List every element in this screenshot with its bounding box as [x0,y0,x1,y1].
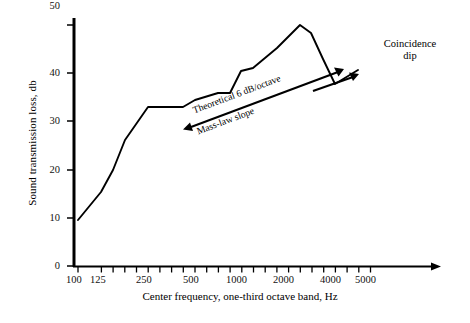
x-tick-label-2000: 2000 [273,274,294,285]
chart-figure: 50 40 30 20 10 0 100 125 250 500 1000 20… [0,0,470,323]
mass-law-arrow-upper [313,73,359,92]
y-tick-label-50: 50 [38,0,60,11]
y-tick-label-40: 40 [38,67,60,78]
annotation-coincidence-dip: Coincidence dip [364,38,456,63]
x-tick-label-100: 100 [66,274,82,285]
x-tick-label-1000: 1000 [226,274,247,285]
annotation-coincidence-dip-line1: Coincidence [384,38,436,49]
x-tick-label-500: 500 [183,274,199,285]
x-axis-arrowhead [431,263,441,271]
x-axis-title: Center frequency, one-third octave band,… [75,290,405,302]
annotation-coincidence-dip-line2: dip [403,50,416,61]
y-tick-label-0: 0 [38,260,60,271]
y-tick-label-30: 30 [38,115,60,126]
x-tick-label-4000: 4000 [320,274,341,285]
y-axis-title: Sound transmission loss, db [26,33,38,253]
x-tick-label-5000: 5000 [355,274,376,285]
y-tick-label-10: 10 [38,212,60,223]
x-tick-label-125: 125 [90,274,106,285]
x-tick-label-250: 250 [136,274,152,285]
y-tick-label-20: 20 [38,164,60,175]
